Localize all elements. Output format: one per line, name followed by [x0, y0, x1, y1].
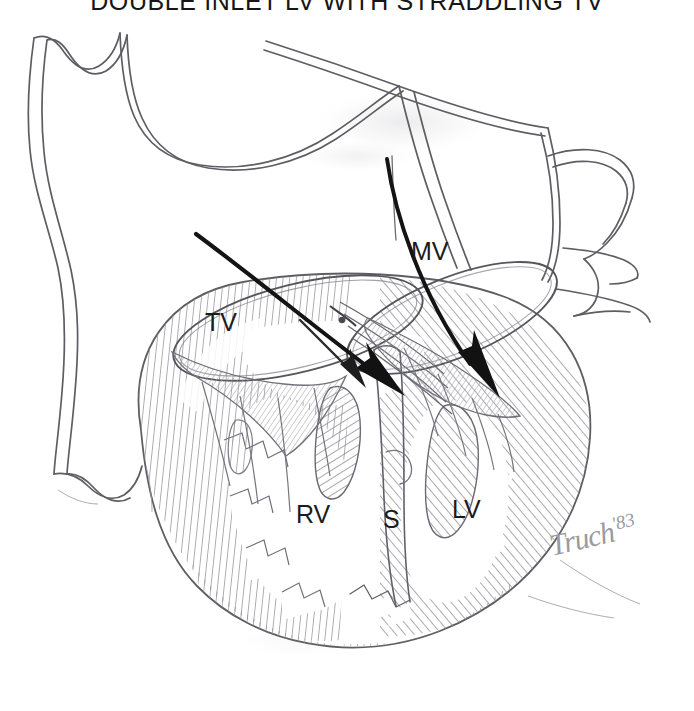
label-tricuspid-valve: TV — [205, 308, 237, 337]
figure-root: DOUBLE INLET LV WITH STRADDLING TV — [0, 0, 694, 711]
label-left-ventricle: LV — [452, 495, 481, 524]
label-mitral-valve: MV — [411, 237, 449, 266]
page-title: DOUBLE INLET LV WITH STRADDLING TV — [0, 0, 694, 16]
heart-illustration — [0, 0, 694, 711]
label-right-ventricle: RV — [296, 500, 330, 529]
signature-year: '83 — [609, 509, 636, 535]
label-septum: S — [383, 505, 400, 534]
valve-commissure — [339, 317, 345, 323]
